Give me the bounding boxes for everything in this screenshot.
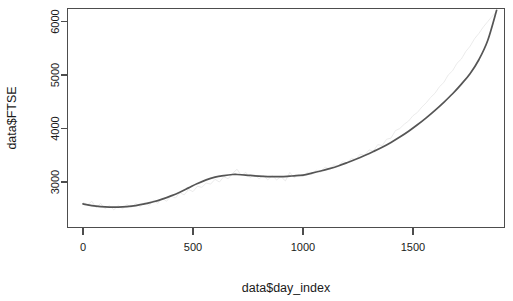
y-axis-title: data$FTSE	[5, 86, 19, 149]
chart-canvas: 050010001500 3000400050006000 data$day_i…	[0, 0, 513, 301]
y-tick-label: 4000	[49, 116, 61, 140]
y-tick-label: 3000	[49, 170, 61, 194]
x-tick-label: 1500	[401, 241, 425, 253]
x-tick-label: 500	[184, 241, 202, 253]
y-tick-label: 6000	[49, 9, 61, 33]
x-tick-label: 1000	[291, 241, 315, 253]
plot-background	[0, 0, 513, 301]
x-axis-title: data$day_index	[242, 281, 331, 295]
y-tick-label: 5000	[49, 63, 61, 87]
ftse-day-index-plot: 050010001500 3000400050006000 data$day_i…	[0, 0, 513, 301]
x-tick-label: 0	[80, 241, 86, 253]
